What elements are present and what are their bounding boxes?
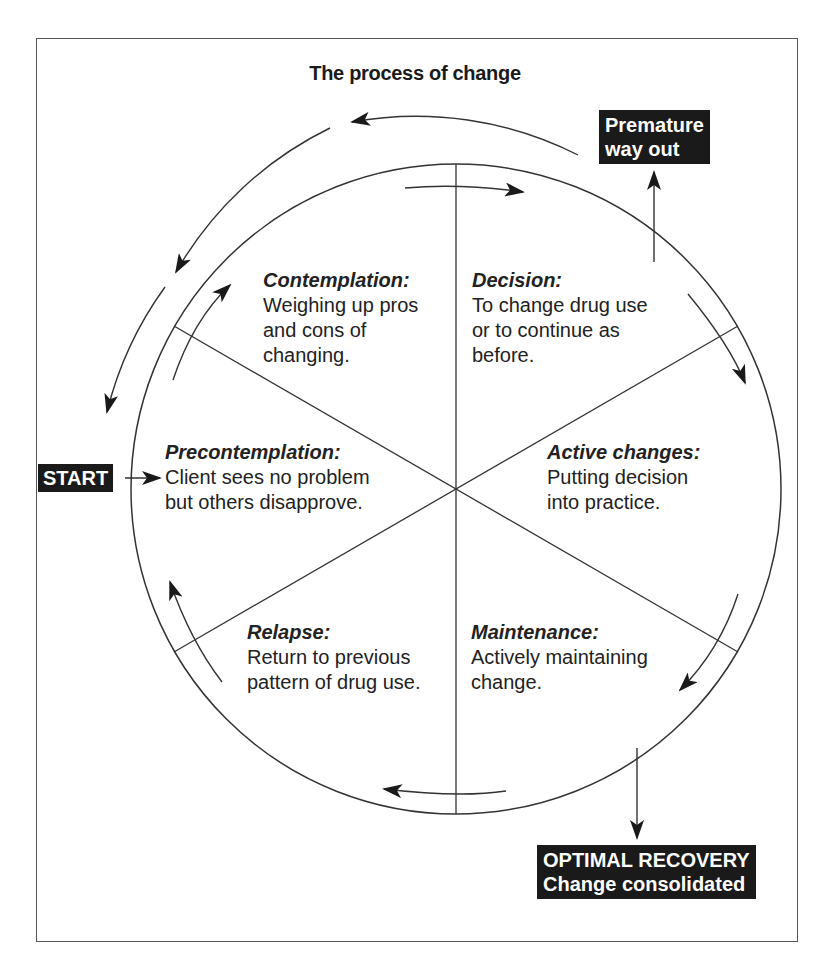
stage-name: Maintenance: — [471, 620, 648, 645]
start-label: START — [38, 464, 113, 492]
stage-relapse: Relapse: Return to previous pattern of d… — [247, 620, 420, 695]
stage-name: Decision: — [472, 268, 648, 293]
stage-name: Active changes: — [547, 440, 700, 465]
stage-description: Return to previous pattern of drug use. — [247, 645, 420, 695]
stage-description: Putting decision into practice. — [547, 465, 700, 515]
stage-description: Weighing up pros and cons of changing. — [263, 293, 418, 368]
stage-description: Actively maintaining change. — [471, 645, 648, 695]
stage-name: Relapse: — [247, 620, 420, 645]
stage-decision: Decision: To change drug use or to conti… — [472, 268, 648, 368]
premature-way-out-label: Premature way out — [599, 110, 710, 164]
stage-active-changes: Active changes: Putting decision into pr… — [547, 440, 700, 515]
stage-maintenance: Maintenance: Actively maintaining change… — [471, 620, 648, 695]
optimal-recovery-label: OPTIMAL RECOVERY Change consolidated — [537, 845, 756, 899]
stage-name: Precontemplation: — [165, 440, 370, 465]
stage-precontemplation: Precontemplation: Client sees no problem… — [165, 440, 370, 515]
stage-description: Client sees no problem but others disapp… — [165, 465, 370, 515]
stage-contemplation: Contemplation: Weighing up pros and cons… — [263, 268, 418, 368]
stage-name: Contemplation: — [263, 268, 418, 293]
stage-description: To change drug use or to continue as bef… — [472, 293, 648, 368]
